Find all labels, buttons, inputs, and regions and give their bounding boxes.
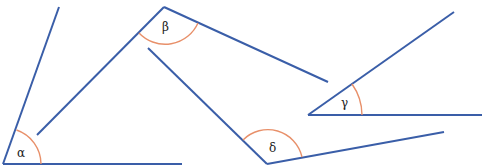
beta-ray-1 [37, 7, 164, 135]
beta-ray-2 [164, 7, 328, 82]
angle-beta: β [37, 7, 328, 135]
delta-label: δ [269, 141, 276, 155]
gamma-arc [352, 84, 362, 115]
delta-ray-1 [148, 48, 267, 164]
beta-label: β [162, 20, 169, 34]
alpha-label: α [17, 146, 25, 160]
angle-delta: δ [148, 48, 444, 164]
alpha-ray-1 [3, 7, 59, 164]
delta-ray-2 [267, 132, 444, 164]
angle-alpha: α [3, 7, 182, 164]
gamma-ray-1 [308, 12, 454, 115]
angle-diagram: α β γ δ [0, 0, 482, 166]
gamma-label: γ [341, 96, 348, 110]
angle-gamma: γ [308, 12, 482, 115]
diagram-canvas: α β γ δ [0, 0, 482, 166]
